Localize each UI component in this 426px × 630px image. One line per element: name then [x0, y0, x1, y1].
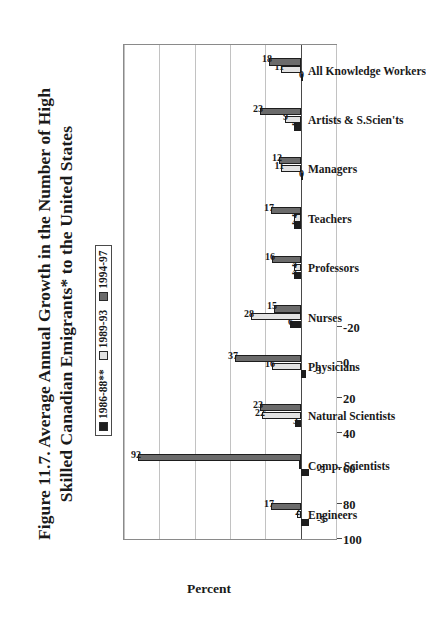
axis-tick-mark — [337, 326, 342, 327]
bar-value-label: 18 — [262, 54, 272, 64]
bar — [272, 256, 300, 263]
category-label: Managers — [308, 165, 357, 177]
legend-swatch-icon — [99, 292, 108, 301]
chart-legend: 1986-88**1989-931994-97 — [95, 245, 112, 436]
bar — [260, 404, 301, 411]
bar — [274, 305, 301, 312]
bar-value-label: 15 — [267, 301, 277, 311]
bar — [235, 355, 300, 362]
category-label: Professors — [308, 263, 359, 275]
plot-canvas: -5217Engineers-592Comp. Scientists32223N… — [124, 45, 336, 539]
legend-item-label: 1989-93 — [97, 310, 109, 348]
legend-swatch-icon — [99, 422, 108, 431]
chart-title-line-1: Figure 11.7. Average Annual Growth in th… — [33, 30, 55, 598]
bar — [138, 454, 301, 461]
legend-swatch-icon — [99, 351, 108, 360]
axis-tick-mark — [337, 432, 342, 433]
axis-tick-mark — [337, 538, 342, 539]
bar — [262, 412, 301, 419]
axis-tick-label: 100 — [343, 534, 362, 547]
bar-value-label: 17 — [264, 203, 274, 213]
axis-tick-mark — [337, 503, 342, 504]
axis-tick-label: 80 — [343, 499, 356, 512]
bar-group: -592 — [124, 440, 336, 489]
legend-item: 1994-97 — [97, 250, 109, 300]
bar-value-label: 16 — [265, 252, 275, 262]
axis-tick-label: -20 — [343, 322, 360, 335]
bar-group: -31637 — [124, 341, 336, 390]
bar-value-label: 23 — [253, 400, 263, 410]
bar-group: 4416 — [124, 243, 336, 292]
chart-figure: Figure 11.7. Average Annual Growth in th… — [19, 22, 377, 606]
legend-item-label: 1986-88** — [97, 369, 109, 419]
bar-value-label: 92 — [131, 450, 141, 460]
category-label: Natural Scientists — [308, 412, 395, 424]
bar — [251, 313, 300, 320]
legend-item: 1986-88** — [97, 369, 109, 431]
axis-tick-label: 20 — [343, 393, 356, 406]
bar-group: 01118 — [124, 45, 336, 94]
chart-title: Figure 11.7. Average Annual Growth in th… — [33, 30, 78, 598]
category-label: All Knowledge Workers — [308, 66, 426, 78]
legend-item-label: 1994-97 — [97, 250, 109, 288]
bar — [271, 207, 301, 214]
bar — [299, 461, 301, 468]
bar — [269, 58, 301, 65]
y-axis-title: Percent — [187, 582, 231, 596]
axis-tick-mark — [337, 361, 342, 362]
axis-tick-mark — [337, 397, 342, 398]
plot-area: -5217Engineers-592Comp. Scientists32223N… — [123, 44, 337, 540]
axis-tick-label: 40 — [343, 428, 356, 441]
bar — [272, 363, 300, 370]
bar — [281, 66, 300, 73]
bar-group: -5217 — [124, 490, 336, 539]
rotated-figure-container: Figure 11.7. Average Annual Growth in th… — [19, 22, 377, 606]
category-label: Artists & S.Scien'ts — [308, 115, 404, 127]
value-axis: -20020406080100 — [337, 44, 347, 540]
scanned-page-frame: Figure 11.7. Average Annual Growth in th… — [19, 22, 377, 606]
bar — [271, 503, 301, 510]
bar — [260, 108, 301, 115]
category-label: Engineers — [308, 510, 357, 522]
bar-value-label: 17 — [264, 499, 274, 509]
bar-group: 4417 — [124, 193, 336, 242]
bar-group: 01112 — [124, 144, 336, 193]
bar-value-label: 23 — [253, 104, 263, 114]
bar-group: 62815 — [124, 292, 336, 341]
bar-group: 32223 — [124, 391, 336, 440]
bar — [279, 157, 300, 164]
bar-value-label: 37 — [228, 351, 238, 361]
axis-tick-mark — [337, 467, 342, 468]
bar — [301, 370, 306, 377]
category-label: Physicians — [308, 362, 360, 374]
chart-title-line-2: Skilled Canadian Emigrants* to the Unite… — [55, 30, 77, 598]
axis-tick-label: 60 — [343, 463, 356, 476]
legend-item: 1989-93 — [97, 310, 109, 360]
bar — [281, 165, 300, 172]
bar-value-label: 28 — [244, 309, 254, 319]
axis-tick-label: 0 — [343, 357, 349, 370]
bar-value-label: 12 — [272, 153, 282, 163]
bar-group: 4923 — [124, 94, 336, 143]
